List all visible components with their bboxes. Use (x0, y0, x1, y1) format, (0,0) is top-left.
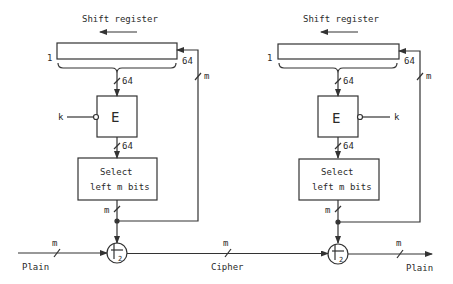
xor-circle (107, 243, 127, 263)
select-box (299, 159, 379, 200)
register-end-label: 64 (404, 56, 415, 66)
shift-register-box (57, 43, 177, 59)
xor-subscript: 2 (339, 256, 343, 264)
select-line1: Select (100, 167, 133, 177)
register-output-width: 64 (122, 76, 133, 86)
select-box (78, 158, 157, 200)
register-brace (279, 63, 397, 73)
shift-register-label: Shift register (303, 14, 379, 24)
key-input-circle (358, 115, 363, 120)
data-line (18, 249, 432, 258)
shift-register-label: Shift register (82, 14, 158, 24)
cfb-diagram: Shift register 1 64 64 m E k 64 Select l… (0, 0, 453, 284)
register-start-label: 1 (47, 53, 52, 63)
shift-register-box (278, 44, 399, 59)
register-brace (58, 63, 176, 73)
xor-circle (328, 244, 348, 264)
encrypt-label: E (111, 109, 119, 125)
register-output-width: 64 (343, 76, 354, 86)
xor-subscript: 2 (118, 255, 122, 263)
register-end-label: 64 (182, 56, 193, 66)
cipher-width: m (223, 238, 228, 248)
plain-output-width: m (396, 238, 401, 248)
select-line2: left m bits (90, 182, 150, 192)
select-line1: Select (321, 167, 354, 177)
encrypt-label: E (332, 110, 340, 126)
register-start-label: 1 (267, 53, 272, 63)
key-input-circle (94, 115, 99, 120)
select-line2: left m bits (312, 182, 372, 192)
select-output-width: m (325, 205, 330, 215)
plain-output-label: Plain (406, 263, 433, 273)
encrypt-output-width: 64 (343, 141, 354, 151)
encrypt-output-width: 64 (122, 141, 133, 151)
key-label: k (58, 112, 64, 122)
feedback-width: m (204, 71, 209, 81)
plain-input-label: Plain (22, 262, 49, 272)
key-label: k (394, 112, 400, 122)
plain-input-width: m (52, 238, 57, 248)
cipher-label: Cipher (211, 262, 244, 272)
feedback-width: m (426, 71, 431, 81)
select-output-width: m (104, 205, 109, 215)
